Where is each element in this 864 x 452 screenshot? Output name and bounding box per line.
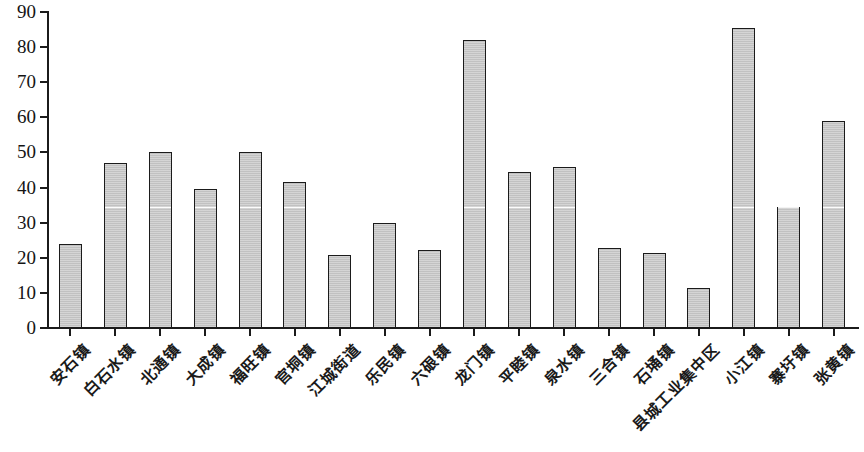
bar-fill-texture [688,289,709,327]
y-axis-tick-label: 0 [0,318,36,337]
x-axis-category-label: 小江镇 [718,338,769,389]
x-axis-tick [114,329,116,336]
x-axis-category-label: 平睦镇 [493,338,544,389]
y-axis-tick [40,222,49,224]
x-axis-category-label-text: 小江镇 [718,338,769,389]
bar-scan-seam [105,207,126,209]
y-axis-tick-label: 70 [0,72,36,91]
bar-scan-seam [464,207,485,209]
x-axis-tick [429,329,431,336]
bar [553,167,576,329]
x-axis-tick [473,329,475,336]
x-axis-tick [833,329,835,336]
bar-scan-seam [509,207,530,209]
bar-fill-texture [419,251,440,327]
x-axis-category-label-text: 福旺镇 [224,338,275,389]
x-axis-tick [384,329,386,336]
bar-scan-seam [284,207,305,209]
y-axis-tick [40,11,49,13]
x-axis-tick [608,329,610,336]
bar-scan-seam [150,207,171,209]
bar-fill-texture [60,245,81,327]
bar [822,121,845,328]
bar-fill-texture [823,122,844,327]
bar-fill-texture [644,254,665,327]
y-axis-tick [40,46,49,48]
x-axis-category-label: 龙门镇 [448,338,499,389]
bar [373,223,396,328]
x-axis-tick [249,329,251,336]
x-axis-category-label: 张黄镇 [808,338,859,389]
bar-scan-seam [823,207,844,209]
x-axis-tick [204,329,206,336]
plot-area [48,12,856,328]
bar-fill-texture [733,29,754,327]
bar-scan-seam [554,207,575,209]
x-axis-tick [563,329,565,336]
x-axis-category-label-text: 六硍镇 [404,338,455,389]
bar-chart: 0102030405060708090 安石镇白石水镇北通镇大成镇福旺镇官垌镇江… [0,0,864,452]
x-axis-tick [69,329,71,336]
bar-scan-seam [733,207,754,209]
bar [149,152,172,328]
x-axis-category-label-text: 乐民镇 [359,338,410,389]
x-axis-category-label-text: 大成镇 [179,338,230,389]
x-axis-category-label-text: 三合镇 [583,338,634,389]
x-axis-tick [788,329,790,336]
bar-scan-seam [240,207,261,209]
y-axis-tick [40,151,49,153]
bar [463,40,486,328]
x-axis-tick [698,329,700,336]
x-axis-category-label-text: 龙门镇 [448,338,499,389]
bar-fill-texture [374,224,395,327]
x-axis-category-label: 寨圩镇 [763,338,814,389]
bar-fill-texture [464,41,485,327]
y-axis-tick-label: 30 [0,213,36,232]
bar [598,248,621,328]
bar [104,163,127,328]
bar-fill-texture [509,173,530,327]
bar [59,244,82,328]
bar [687,288,710,328]
y-axis-tick-label: 90 [0,2,36,21]
bar-fill-texture [554,168,575,328]
bar [239,152,262,328]
bar [418,250,441,328]
y-axis-tick [40,257,49,259]
y-axis-tick [40,292,49,294]
x-axis-category-label-text: 张黄镇 [808,338,859,389]
bar-fill-texture [599,249,620,327]
x-axis-tick [159,329,161,336]
bar-fill-texture [329,256,350,327]
x-axis-category-label: 北通镇 [134,338,185,389]
bar [777,207,800,328]
x-axis-category-label-text: 北通镇 [134,338,185,389]
x-axis-category-label-text: 寨圩镇 [763,338,814,389]
bar [508,172,531,328]
x-axis-category-label: 三合镇 [583,338,634,389]
x-axis-tick [743,329,745,336]
y-axis-tick-label: 80 [0,37,36,56]
y-axis-tick [40,81,49,83]
y-axis-tick-label: 20 [0,248,36,267]
x-axis-category-label: 六硍镇 [404,338,455,389]
bar-fill-texture [105,164,126,327]
bar [732,28,755,328]
bar-scan-seam [778,207,799,209]
y-axis-tick-label: 60 [0,107,36,126]
bar-fill-texture [150,153,171,327]
x-axis-tick [339,329,341,336]
x-axis-category-label: 大成镇 [179,338,230,389]
bar-scan-seam [195,207,216,209]
x-axis-tick [653,329,655,336]
y-axis-tick-label: 10 [0,283,36,302]
x-axis-category-label: 乐民镇 [359,338,410,389]
bar-fill-texture [284,183,305,327]
y-axis-tick [40,327,49,329]
x-axis-tick [294,329,296,336]
y-axis-tick [40,116,49,118]
bar [643,253,666,328]
bar-fill-texture [778,208,799,327]
y-axis-tick-label: 50 [0,142,36,161]
bar [283,182,306,328]
